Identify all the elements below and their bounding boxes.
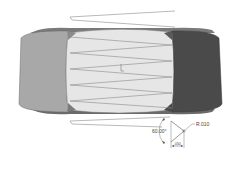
cad-drawing-canvas: R.010 60.00° .050	[0, 0, 237, 170]
left-hex-face	[19, 31, 68, 112]
radius-dimension-label: R.010	[196, 121, 210, 127]
thread-helix-top	[70, 11, 175, 27]
width-dimension-label: .050	[174, 142, 181, 146]
angle-dimension-label: 60.00°	[152, 128, 167, 134]
center-hex-face	[66, 29, 174, 113]
thread-helix-bottom	[70, 117, 170, 127]
right-hex-face	[172, 31, 222, 112]
